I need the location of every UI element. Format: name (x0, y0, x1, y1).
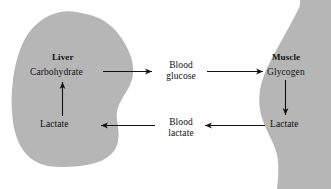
liver-carbohydrate-label: Carbohydrate (30, 67, 83, 78)
liver-organ-label: Liver (52, 52, 74, 63)
blood-lactate-label: Blood lactate (159, 117, 203, 139)
blood-glucose-line-2: glucose (166, 71, 196, 81)
liver-lactate-label: Lactate (40, 119, 69, 130)
muscle-lactate-label: Lactate (270, 119, 299, 130)
arrow-blood-glucose-to-glycogen (207, 69, 263, 75)
blood-lactate-line-1: Blood (169, 117, 193, 127)
muscle-shape (259, 0, 331, 189)
muscle-organ-label: Muscle (272, 52, 300, 63)
arrow-muscle-lactate-to-blood-lactate (205, 123, 265, 129)
blood-lactate-line-2: lactate (168, 128, 193, 138)
cori-cycle-diagram: Liver Carbohydrate Lactate Blood glucose… (0, 0, 331, 189)
liver-shape (12, 11, 134, 167)
diagram-canvas (0, 0, 331, 189)
blood-glucose-line-1: Blood (169, 60, 193, 70)
muscle-glycogen-label: Glycogen (267, 67, 305, 78)
blood-glucose-label: Blood glucose (159, 60, 203, 82)
